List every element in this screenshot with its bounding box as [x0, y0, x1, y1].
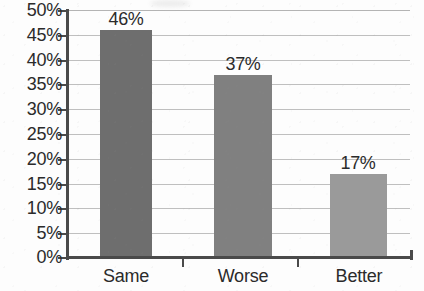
x-axis-label-same: Same [95, 266, 157, 287]
x-axis-label-worse: Worse [208, 266, 278, 287]
data-label-same: 46% [96, 9, 156, 30]
bar-chart: 50% 45% 40% 35% 30% 25% 20% 15% 10% 5% 0… [0, 0, 424, 291]
bars-layer [0, 0, 424, 258]
x-separator-1 [182, 258, 184, 267]
bar-same [100, 30, 152, 258]
x-separator-2 [297, 258, 299, 267]
x-axis-end-cap [410, 250, 413, 260]
x-axis-label-better: Better [324, 266, 394, 287]
bar-better [330, 174, 387, 258]
y-axis-label-5: 5% [4, 223, 62, 244]
y-axis-label-15: 15% [4, 174, 62, 195]
y-axis-label-35: 35% [4, 74, 62, 95]
y-axis-label-20: 20% [4, 149, 62, 170]
data-label-better: 17% [328, 153, 388, 174]
y-axis-label-0: 0% [4, 247, 62, 268]
y-axis-label-25: 25% [4, 124, 62, 145]
x-axis-line [66, 256, 413, 259]
y-axis-labels: 50% 45% 40% 35% 30% 25% 20% 15% 10% 5% 0… [0, 0, 62, 291]
y-axis-label-45: 45% [4, 25, 62, 46]
y-axis-label-30: 30% [4, 99, 62, 120]
bar-worse [214, 75, 272, 259]
y-axis-label-50: 50% [4, 0, 62, 21]
y-axis-label-40: 40% [4, 50, 62, 71]
y-axis-label-10: 10% [4, 198, 62, 219]
data-label-worse: 37% [213, 54, 273, 75]
